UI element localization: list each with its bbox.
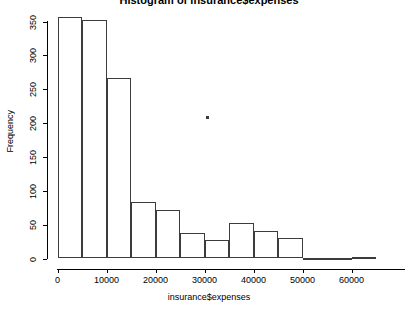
y-axis-tick xyxy=(43,89,47,90)
y-axis-tick-label: 150 xyxy=(29,144,39,170)
y-axis-tick-label: 50 xyxy=(29,212,39,238)
stray-pixel-artifact xyxy=(206,116,209,119)
y-axis-tick-label: 100 xyxy=(29,178,39,204)
x-axis-line xyxy=(57,269,405,270)
x-axis-tick-label: 60000 xyxy=(322,276,382,285)
y-axis-tick-label: 300 xyxy=(29,42,39,68)
histogram-bar xyxy=(58,17,83,259)
y-axis-tick xyxy=(43,22,47,23)
x-axis-tick xyxy=(303,269,304,273)
y-axis-tick xyxy=(43,123,47,124)
y-axis-tick xyxy=(43,259,47,260)
histogram-bar xyxy=(82,20,107,258)
x-axis-tick xyxy=(205,269,206,273)
histogram-bar xyxy=(254,231,279,258)
histogram-bar xyxy=(352,257,377,259)
histogram-bar xyxy=(156,210,181,258)
histogram-bar xyxy=(327,258,352,260)
y-axis-tick-label: 350 xyxy=(29,9,39,35)
bars-layer xyxy=(0,0,418,318)
y-axis-tick xyxy=(43,55,47,56)
y-axis-line xyxy=(47,21,48,259)
histogram-bar xyxy=(278,238,303,258)
histogram-bar xyxy=(229,223,254,259)
y-axis-tick-label: 0 xyxy=(29,246,39,272)
y-axis-tick xyxy=(43,191,47,192)
histogram-bar xyxy=(131,202,156,258)
x-axis-tick xyxy=(58,269,59,273)
y-axis-tick xyxy=(43,225,47,226)
histogram-bar xyxy=(180,233,205,259)
x-axis-tick xyxy=(156,269,157,273)
y-axis-tick xyxy=(43,157,47,158)
histogram-bar xyxy=(107,78,132,258)
y-axis-tick-label: 200 xyxy=(29,110,39,136)
histogram-bar xyxy=(205,240,230,259)
x-axis-tick xyxy=(352,269,353,273)
x-axis-tick xyxy=(107,269,108,273)
histogram-plot: Histogram of insurance$expenses 05010015… xyxy=(0,0,418,318)
y-axis-title: Frequency xyxy=(6,110,15,153)
x-axis-tick xyxy=(254,269,255,273)
histogram-bar xyxy=(303,258,328,260)
x-axis-title: insurance$expenses xyxy=(0,293,418,302)
y-axis-tick-label: 250 xyxy=(29,76,39,102)
